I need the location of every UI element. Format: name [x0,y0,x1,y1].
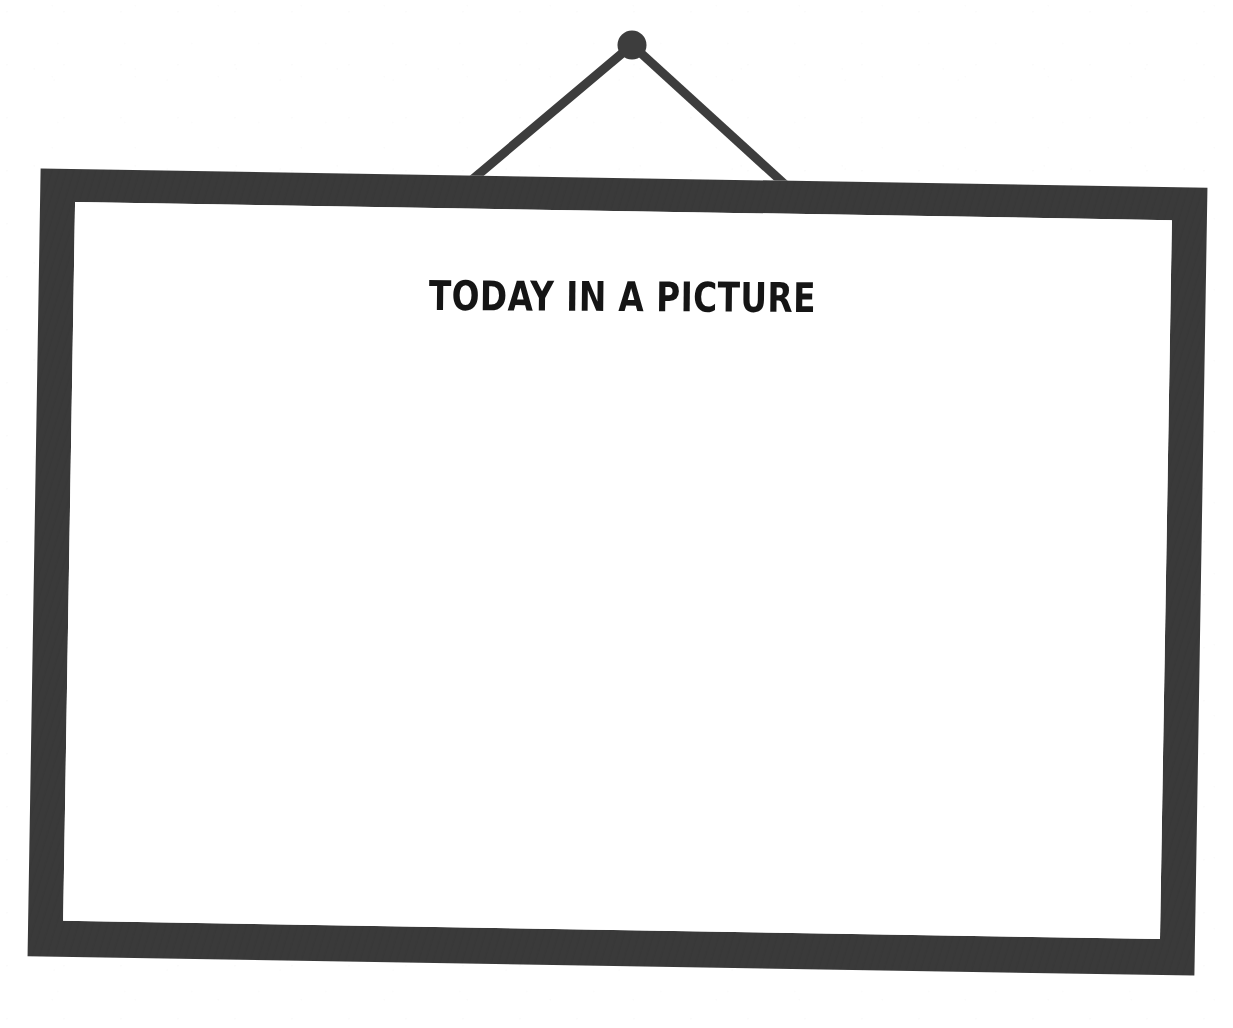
board-heading: TODAY IN A PICTURE [73,268,1171,327]
nail-knob-icon [618,31,647,60]
board-heading-text: TODAY IN A PICTURE [428,276,815,319]
board-surface: TODAY IN A PICTURE [63,202,1172,939]
picture-frame: TODAY IN A PICTURE [28,168,1208,975]
board-content-area [63,332,1170,939]
illustration-canvas: TODAY IN A PICTURE [0,0,1233,1028]
